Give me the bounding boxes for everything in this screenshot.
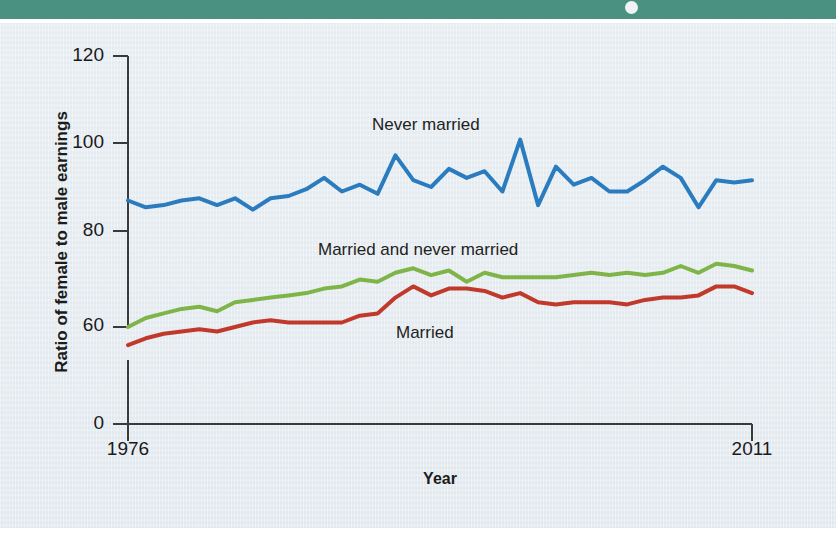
data-lines <box>128 140 752 346</box>
line-married-and-never-married <box>128 264 752 327</box>
line-never-married <box>128 140 752 210</box>
axis-lines <box>113 56 752 441</box>
plot-area <box>0 0 836 541</box>
chart-figure: Ratio of female to male earnings Year 12… <box>0 0 836 541</box>
line-married <box>128 286 752 345</box>
